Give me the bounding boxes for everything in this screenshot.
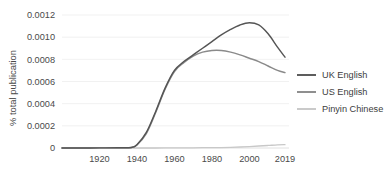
y-axis-tick-label: 0: [50, 143, 55, 153]
x-axis-tick-label: 2000: [239, 154, 259, 164]
x-axis-tick-label: 1920: [89, 154, 109, 164]
line-chart: 00.00020.00040.00060.00080.00100.0012 19…: [0, 0, 388, 176]
gridlines: [62, 15, 289, 148]
series-line-uk-english: [62, 23, 285, 148]
x-axis-tick-label: 1940: [127, 154, 147, 164]
data-series: [62, 23, 285, 148]
y-axis-tick-label: 0.0012: [27, 10, 55, 20]
chart-legend: UK EnglishUS EnglishPinyin Chinese: [297, 70, 383, 114]
legend-label: UK English: [322, 70, 367, 80]
y-axis-tick-label: 0.0002: [27, 121, 55, 131]
chart-container: 00.00020.00040.00060.00080.00100.0012 19…: [0, 0, 388, 176]
legend-label: Pinyin Chinese: [322, 104, 383, 114]
y-axis-tick-labels: 00.00020.00040.00060.00080.00100.0012: [27, 10, 55, 153]
y-axis-tick-label: 0.0008: [27, 55, 55, 65]
x-axis-tick-label: 2019: [275, 154, 295, 164]
y-axis-tick-label: 0.0010: [27, 32, 55, 42]
x-axis-tick-labels: 192019401960198020002019: [89, 154, 295, 164]
x-axis-tick-label: 1960: [164, 154, 184, 164]
legend-label: US English: [322, 87, 367, 97]
x-axis-tick-label: 1980: [202, 154, 222, 164]
y-axis-title: % total publication: [7, 50, 18, 126]
y-axis-tick-label: 0.0006: [27, 77, 55, 87]
series-line-us-english: [62, 50, 285, 148]
y-axis-tick-label: 0.0004: [27, 99, 55, 109]
